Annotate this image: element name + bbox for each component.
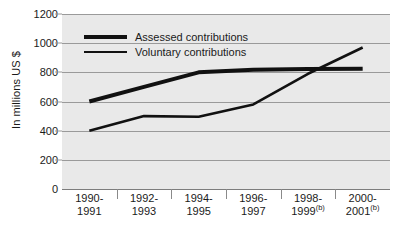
y-tick-mark-600	[55, 101, 62, 102]
legend-label-assessed: Assessed contributions	[135, 31, 248, 43]
legend: Assessed contributions Voluntary contrib…	[84, 29, 248, 59]
legend-label-voluntary: Voluntary contributions	[135, 46, 246, 58]
legend-item-voluntary: Voluntary contributions	[84, 44, 248, 59]
y-tick-mark-200	[55, 159, 62, 160]
y-tick-label-0: 0	[14, 183, 58, 195]
y-tick-label-400: 400	[14, 125, 58, 137]
y-tick-label-200: 200	[14, 154, 58, 166]
y-tick-mark-800	[55, 72, 62, 73]
y-tick-label-1200: 1200	[14, 8, 58, 20]
series-line-assessed	[89, 69, 362, 102]
legend-swatch-assessed-icon	[84, 35, 127, 39]
legend-swatch-voluntary-icon	[84, 51, 127, 53]
legend-item-assessed: Assessed contributions	[84, 29, 248, 44]
line-chart: In millions US $ 120010008006004002000 A…	[0, 0, 407, 225]
plot-area: Assessed contributions Voluntary contrib…	[62, 14, 390, 189]
y-tick-label-1000: 1000	[14, 37, 58, 49]
y-tick-label-800: 800	[14, 66, 58, 78]
y-tick-mark-400	[55, 130, 62, 131]
x-axis-label-5: 2000-2001(b)	[328, 192, 398, 217]
y-tick-mark-1000	[55, 43, 62, 44]
y-tick-label-600: 600	[14, 96, 58, 108]
y-tick-mark-1200	[55, 14, 62, 15]
